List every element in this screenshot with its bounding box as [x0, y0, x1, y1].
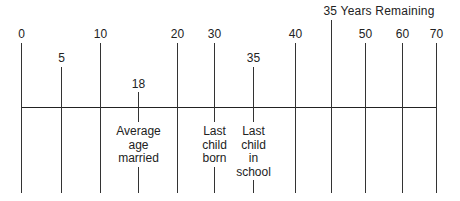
event-label: Average age married — [114, 124, 162, 167]
tick-label: 40 — [289, 27, 302, 41]
tick-line — [402, 43, 403, 193]
tick-line — [436, 43, 437, 193]
years-remaining-banner: 35 Years Remaining — [323, 4, 434, 18]
tick-label: 50 — [359, 27, 372, 41]
tick-line — [177, 43, 178, 193]
tick-line — [100, 43, 101, 193]
tick-line — [214, 43, 215, 122]
tick-line — [253, 67, 254, 122]
tick-line — [253, 179, 254, 193]
event-label: Last child born — [200, 124, 229, 167]
tick-line — [21, 43, 22, 193]
tick-label: 10 — [94, 27, 107, 41]
tick-line — [365, 43, 366, 193]
timeline-axis — [21, 107, 437, 109]
tick-line — [138, 166, 139, 193]
tick-label: 20 — [171, 27, 184, 41]
tick-line — [138, 92, 139, 122]
tick-line — [61, 67, 62, 193]
tick-label: 35 — [247, 51, 260, 65]
tick-line — [331, 20, 332, 193]
life-timeline-diagram: 05101820303540506070 Average age married… — [0, 0, 460, 201]
tick-label: 0 — [18, 27, 25, 41]
tick-line — [214, 166, 215, 193]
tick-label: 60 — [396, 27, 409, 41]
tick-label: 18 — [132, 77, 145, 91]
event-label: Last child in school — [234, 124, 273, 180]
tick-label: 70 — [430, 27, 443, 41]
tick-label: 5 — [58, 51, 65, 65]
tick-line — [295, 43, 296, 193]
tick-label: 30 — [208, 27, 221, 41]
